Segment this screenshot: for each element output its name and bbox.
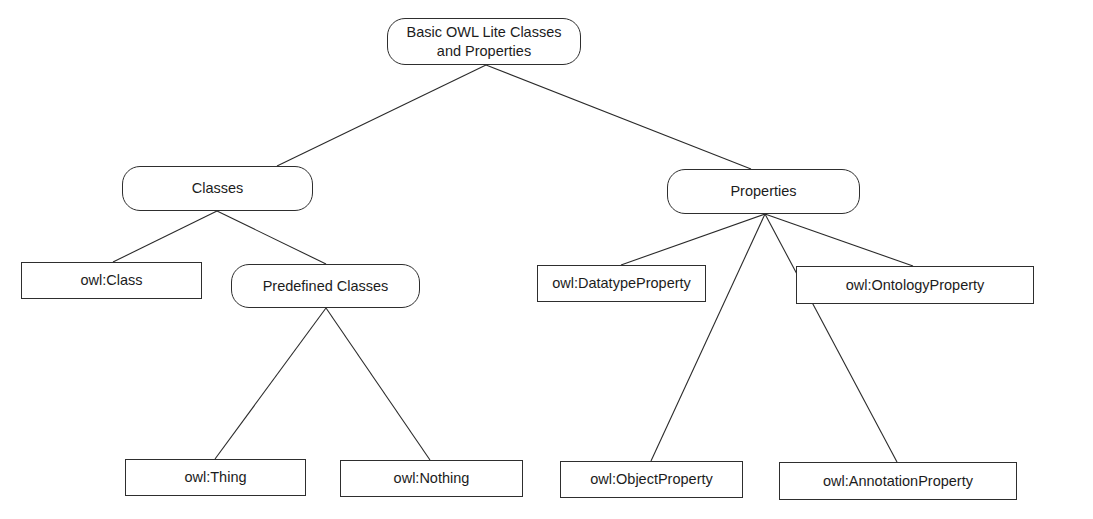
owl-lite-tree-diagram: Basic OWL Lite Classes and Properties Cl… <box>0 0 1093 519</box>
node-owl-thing-label: owl:Thing <box>184 468 246 487</box>
edge-predefined-owl-thing <box>215 308 326 459</box>
edge-properties-objectproperty <box>651 214 765 461</box>
node-properties[interactable]: Properties <box>667 169 860 214</box>
edge-classes-predefined-classes <box>217 211 326 264</box>
node-root[interactable]: Basic OWL Lite Classes and Properties <box>387 18 581 65</box>
node-properties-label: Properties <box>730 182 796 201</box>
node-owl-annotationproperty[interactable]: owl:AnnotationProperty <box>779 462 1017 500</box>
edge-properties-datatypeproperty <box>621 214 765 265</box>
node-owl-class-label: owl:Class <box>80 271 142 290</box>
edge-root-properties <box>486 65 751 169</box>
edge-classes-owl-class <box>113 211 217 262</box>
node-owl-nothing-label: owl:Nothing <box>394 469 470 488</box>
node-predefined-classes[interactable]: Predefined Classes <box>231 264 420 308</box>
node-predefined-classes-label: Predefined Classes <box>263 277 389 296</box>
node-owl-annotationproperty-label: owl:AnnotationProperty <box>823 472 973 491</box>
edge-root-classes <box>277 65 486 166</box>
node-owl-ontologyproperty-label: owl:OntologyProperty <box>846 276 985 295</box>
node-owl-class[interactable]: owl:Class <box>21 262 202 299</box>
node-owl-datatypeproperty[interactable]: owl:DatatypeProperty <box>537 265 706 302</box>
edge-layer <box>0 0 1093 519</box>
node-owl-datatypeproperty-label: owl:DatatypeProperty <box>552 274 691 293</box>
node-root-label: Basic OWL Lite Classes and Properties <box>407 23 562 61</box>
edge-predefined-owl-nothing <box>326 308 430 460</box>
edge-properties-ontologyproperty <box>765 214 913 266</box>
node-owl-objectproperty-label: owl:ObjectProperty <box>590 470 713 489</box>
edge-properties-annotationproperty <box>765 214 897 462</box>
node-owl-thing[interactable]: owl:Thing <box>125 459 306 496</box>
node-owl-objectproperty[interactable]: owl:ObjectProperty <box>560 461 743 498</box>
node-classes[interactable]: Classes <box>122 166 313 211</box>
node-owl-nothing[interactable]: owl:Nothing <box>340 460 523 497</box>
node-classes-label: Classes <box>192 179 244 198</box>
node-owl-ontologyproperty[interactable]: owl:OntologyProperty <box>796 266 1034 304</box>
